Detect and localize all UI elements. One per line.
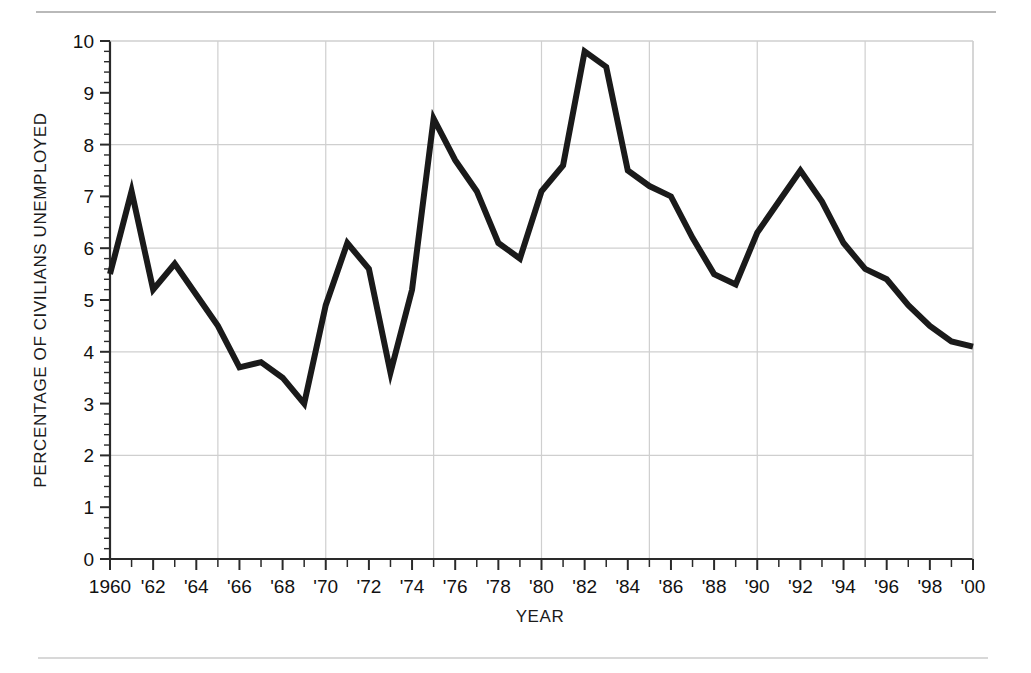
x-tick-label: '64 xyxy=(184,576,209,597)
x-tick-label: '92 xyxy=(788,576,813,597)
x-tick-label: '76 xyxy=(443,576,468,597)
page-root: 012345678910 1960'62'64'66'68'70'72'74'7… xyxy=(0,0,1031,673)
x-tick-label: '00 xyxy=(961,576,986,597)
unemployment-line-chart: 012345678910 1960'62'64'66'68'70'72'74'7… xyxy=(0,0,1031,673)
x-axis-title: YEAR xyxy=(516,607,565,626)
y-tick-label: 1 xyxy=(83,497,94,518)
x-tick-label: '70 xyxy=(313,576,338,597)
y-tick-label: 10 xyxy=(73,31,94,52)
y-tick-label: 7 xyxy=(83,186,94,207)
y-axis-title: PERCENTAGE OF CIVILIANS UNEMPLOYED xyxy=(31,112,50,487)
y-axis-tick-labels: 012345678910 xyxy=(73,31,95,570)
x-axis-tick-labels: 1960'62'64'66'68'70'72'74'76'78'80'82'84… xyxy=(89,576,986,597)
grid-layer xyxy=(110,41,973,559)
y-tick-label: 9 xyxy=(83,83,94,104)
y-tick-label: 4 xyxy=(83,342,94,363)
x-tick-label: '80 xyxy=(529,576,554,597)
x-tick-label: 1960 xyxy=(89,576,131,597)
y-tick-label: 3 xyxy=(83,394,94,415)
x-tick-label: '66 xyxy=(227,576,252,597)
x-tick-label: '78 xyxy=(486,576,511,597)
x-tick-label: '90 xyxy=(745,576,770,597)
x-tick-label: '98 xyxy=(917,576,942,597)
x-tick-label: '74 xyxy=(400,576,425,597)
x-tick-label: '72 xyxy=(357,576,382,597)
y-tick-label: 8 xyxy=(83,135,94,156)
x-tick-label: '94 xyxy=(831,576,856,597)
y-tick-label: 0 xyxy=(83,549,94,570)
axis-ticks xyxy=(100,41,973,570)
x-tick-label: '86 xyxy=(659,576,684,597)
x-tick-label: '84 xyxy=(615,576,640,597)
x-tick-label: '62 xyxy=(141,576,166,597)
y-tick-label: 5 xyxy=(83,290,94,311)
x-tick-label: '82 xyxy=(572,576,597,597)
x-tick-label: '68 xyxy=(270,576,295,597)
x-tick-label: '88 xyxy=(702,576,727,597)
y-tick-label: 2 xyxy=(83,445,94,466)
x-tick-label: '96 xyxy=(874,576,899,597)
y-tick-label: 6 xyxy=(83,238,94,259)
